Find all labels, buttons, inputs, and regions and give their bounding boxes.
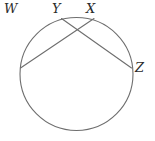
point-label-y: Y (52, 2, 61, 15)
point-label-z: Z (135, 61, 144, 74)
point-label-x: X (86, 2, 95, 15)
point-label-w: W (4, 2, 17, 15)
chord-YZ (62, 19, 132, 69)
circle-outline (20, 18, 133, 131)
geometry-figure: W Y X Z (0, 0, 155, 141)
circle-chords-svg (0, 0, 155, 141)
chord-WX (21, 19, 95, 69)
